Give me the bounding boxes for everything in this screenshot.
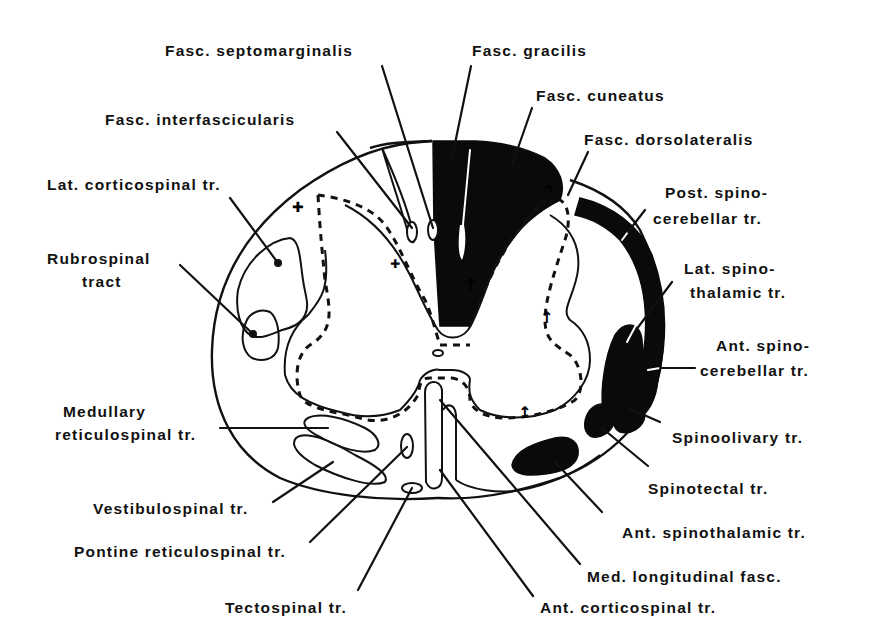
label-spinotectal: Spinotectal tr.	[648, 480, 769, 497]
svg-text:↑: ↑	[540, 308, 553, 327]
label-fasc-septomarginalis: Fasc. septomarginalis	[165, 42, 353, 59]
spinal-cord-diagram: ✚ ✚ ↑ ↑ ↑ ↰ Fasc. septomarginalis Fasc. …	[0, 0, 880, 643]
label-ant-spinocerebellar-2: cerebellar tr.	[700, 362, 809, 379]
label-ant-corticospinal: Ant. corticospinal tr.	[540, 599, 716, 616]
label-medullary-reticulospinal-2: reticulospinal tr.	[55, 426, 196, 443]
label-fasc-gracilis: Fasc. gracilis	[472, 42, 587, 59]
label-lat-corticospinal: Lat. corticospinal tr.	[47, 176, 221, 193]
label-fasc-interfascicularis: Fasc. interfascicularis	[105, 111, 295, 128]
label-vestibulospinal: Vestibulospinal tr.	[93, 500, 248, 517]
svg-text:↑: ↑	[464, 275, 477, 294]
label-pontine-reticulospinal: Pontine reticulospinal tr.	[74, 543, 286, 560]
dorsal-columns	[433, 141, 562, 326]
label-rubrospinal-1: Rubrospinal	[47, 250, 151, 267]
label-lat-spinothalamic-1: Lat. spino-	[684, 260, 776, 277]
svg-text:↑: ↑	[518, 403, 531, 422]
label-med-longitudinal-fasc: Med. longitudinal fasc.	[587, 568, 782, 585]
label-tectospinal: Tectospinal tr.	[225, 599, 347, 616]
septomarginal-tracts	[382, 148, 438, 242]
label-ant-spinocerebellar-1: Ant. spino-	[716, 337, 810, 354]
label-ant-spinothalamic: Ant. spinothalamic tr.	[622, 524, 806, 541]
svg-text:✚: ✚	[390, 257, 400, 271]
label-medullary-reticulospinal-1: Medullary	[63, 403, 146, 420]
label-fasc-dorsolateralis: Fasc. dorsolateralis	[584, 131, 754, 148]
label-fasc-cuneatus: Fasc. cuneatus	[536, 87, 665, 104]
svg-text:✚: ✚	[292, 199, 304, 215]
label-post-spinocerebellar-2: cerebellar tr.	[653, 210, 762, 227]
label-lat-spinothalamic-2: thalamic tr.	[690, 284, 786, 301]
label-post-spinocerebellar-1: Post. spino-	[665, 184, 768, 201]
label-rubrospinal-2: tract	[82, 273, 122, 290]
labels: Fasc. septomarginalis Fasc. gracilis Fas…	[47, 42, 810, 616]
label-spinoolivary: Spinoolivary tr.	[672, 429, 803, 446]
lateral-black-tracts	[512, 198, 664, 475]
svg-text:↰: ↰	[544, 182, 554, 196]
